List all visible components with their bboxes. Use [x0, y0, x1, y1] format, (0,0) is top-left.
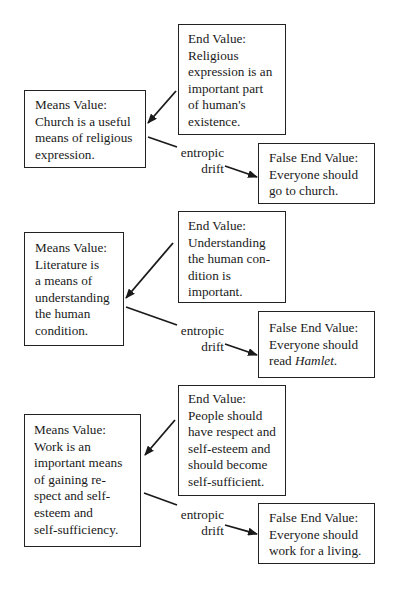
end-value-box-1: End Value: Religious expression is an im… [178, 24, 286, 135]
drift-line-1 [148, 137, 177, 147]
end-value-text: important. [188, 284, 270, 301]
drift-label-line1: entropic [176, 323, 224, 339]
false-end-value-text: Everyone should [269, 337, 358, 354]
false-end-value-box-3: False End Value: Everyone should work fo… [258, 503, 375, 564]
drift-line-3 [144, 493, 177, 505]
end-to-means-arrow-1 [148, 91, 176, 123]
means-value-text: Work is an [34, 439, 122, 456]
drift-label-line2: drift [176, 339, 224, 355]
end-value-text: should become [188, 457, 276, 474]
means-value-heading: Means Value: [35, 240, 110, 257]
false-end-value-box-1: False End Value: Everyone should go to c… [258, 143, 375, 204]
end-to-means-arrow-2 [126, 243, 173, 298]
false-end-value-text: go to church. [269, 183, 358, 200]
means-value-text: a means of [35, 273, 110, 290]
end-value-heading: End Value: [188, 391, 276, 408]
end-value-text: the human con- [188, 251, 270, 268]
false-end-prefix: read [269, 353, 295, 368]
means-value-text: means of religious [35, 130, 132, 147]
false-end-value-text: Everyone should [269, 527, 361, 544]
means-value-text: understanding [35, 290, 110, 307]
means-value-text: expression. [35, 147, 132, 164]
end-value-text: important part [188, 81, 272, 98]
drift-line-2 [126, 307, 177, 325]
hamlet-title: Hamlet [295, 353, 334, 368]
end-value-text: Understanding [188, 235, 270, 252]
means-value-heading: Means Value: [35, 97, 132, 114]
false-end-value-heading: False End Value: [269, 320, 358, 337]
drift-label-line2: drift [176, 523, 224, 539]
false-end-value-box-2: False End Value: Everyone should read Ha… [258, 311, 375, 378]
drift-arrow-1 [225, 166, 257, 177]
false-end-value-text-last: read Hamlet. [269, 353, 358, 370]
false-end-suffix: . [334, 353, 337, 368]
drift-arrow-3 [225, 525, 257, 534]
end-value-text: People should [188, 408, 276, 425]
end-value-box-3: End Value: People should have respect an… [178, 385, 286, 496]
means-value-text: Church is a useful [35, 114, 132, 131]
means-value-text: esteem and [34, 505, 122, 522]
means-value-text: spect and self- [34, 488, 122, 505]
drift-label-line1: entropic [176, 145, 224, 161]
end-to-means-arrow-3 [145, 420, 175, 455]
entropic-drift-label-1: entropic drift [176, 145, 224, 177]
drift-arrow-2 [225, 344, 257, 355]
entropic-drift-label-2: entropic drift [176, 323, 224, 355]
end-value-text: have respect and [188, 424, 276, 441]
means-value-text: the human [35, 306, 110, 323]
drift-label-line2: drift [176, 161, 224, 177]
false-end-value-text: Everyone should [269, 167, 358, 184]
means-value-text: condition. [35, 323, 110, 340]
end-value-text: Religious [188, 48, 272, 65]
end-value-heading: End Value: [188, 218, 270, 235]
end-value-box-2: End Value: Understanding the human con- … [178, 211, 286, 303]
end-value-text: of human's [188, 97, 272, 114]
value-drift-diagram: End Value: Religious expression is an im… [0, 0, 399, 589]
false-end-value-heading: False End Value: [269, 510, 361, 527]
means-value-box-1: Means Value: Church is a useful means of… [24, 90, 146, 168]
entropic-drift-label-3: entropic drift [176, 507, 224, 539]
false-end-value-text: work for a living. [269, 543, 361, 560]
end-value-text: dition is [188, 268, 270, 285]
end-value-text: self-esteem and [188, 441, 276, 458]
false-end-value-heading: False End Value: [269, 150, 358, 167]
end-value-text: existence. [188, 114, 272, 131]
end-value-text: expression is an [188, 64, 272, 81]
end-value-text: self-sufficient. [188, 474, 276, 491]
means-value-box-2: Means Value: Literature is a means of un… [24, 232, 124, 346]
means-value-heading: Means Value: [34, 422, 122, 439]
means-value-text: important means [34, 455, 122, 472]
means-value-text: self-sufficiency. [34, 522, 122, 539]
means-value-text: Literature is [35, 257, 110, 274]
means-value-box-3: Means Value: Work is an important means … [24, 414, 141, 547]
end-value-heading: End Value: [188, 31, 272, 48]
means-value-text: of gaining re- [34, 472, 122, 489]
drift-label-line1: entropic [176, 507, 224, 523]
